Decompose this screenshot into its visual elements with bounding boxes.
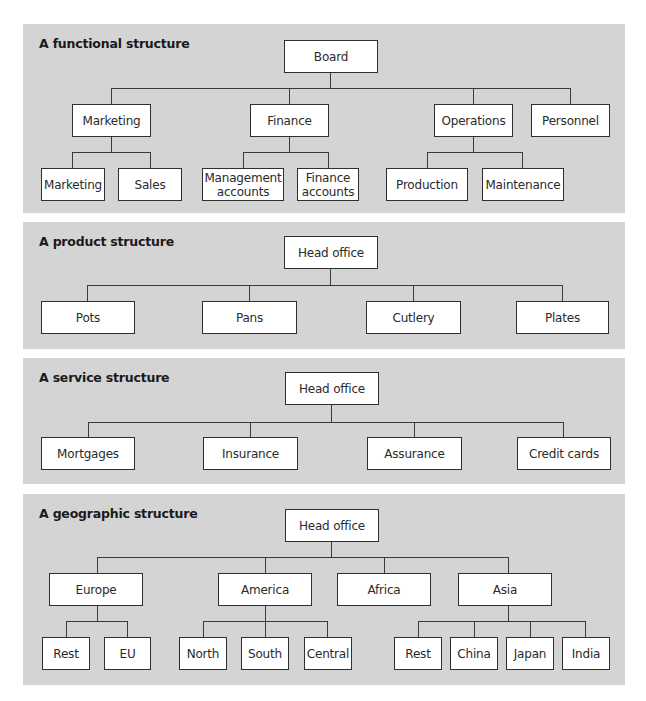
- node-south: South: [241, 637, 289, 670]
- node-assurance: Assurance: [367, 437, 462, 470]
- node-cutlery: Cutlery: [366, 301, 461, 334]
- connector-line: [87, 285, 88, 301]
- connector-line: [473, 137, 474, 152]
- connector-line: [243, 152, 244, 168]
- connector-line: [111, 88, 571, 89]
- panel-title: A service structure: [39, 370, 169, 385]
- connector-line: [265, 557, 266, 573]
- connector-line: [418, 621, 419, 637]
- connector-line: [562, 285, 563, 301]
- connector-line: [427, 152, 523, 153]
- node-eu: EU: [104, 637, 151, 670]
- connector-line: [330, 73, 331, 88]
- connector-line: [289, 88, 290, 104]
- connector-line: [72, 152, 73, 168]
- connector-line: [563, 422, 564, 437]
- connector-line: [522, 152, 523, 168]
- node-europe: Europe: [49, 573, 143, 606]
- connector-line: [243, 152, 329, 153]
- connector-line: [127, 621, 128, 637]
- connector-line: [570, 88, 571, 104]
- connector-line: [331, 405, 332, 422]
- connector-line: [203, 621, 204, 637]
- connector-line: [265, 621, 266, 637]
- connector-line: [384, 557, 385, 573]
- connector-line: [427, 152, 428, 168]
- node-maintenance: Maintenance: [482, 168, 564, 201]
- connector-line: [111, 88, 112, 104]
- connector-line: [72, 152, 151, 153]
- node-head-office: Head office: [284, 236, 378, 269]
- node-china: China: [450, 637, 498, 670]
- node-pans: Pans: [202, 301, 297, 334]
- node-credit-cards: Credit cards: [517, 437, 611, 470]
- node-marketing: Marketing: [72, 104, 151, 137]
- node-head-office: Head office: [285, 372, 379, 405]
- connector-line: [327, 621, 328, 637]
- connector-line: [414, 422, 415, 437]
- node-pots: Pots: [41, 301, 135, 334]
- connector-line: [250, 422, 251, 437]
- panel-title: A functional structure: [39, 36, 190, 51]
- node-board: Board: [284, 40, 378, 73]
- connector-line: [418, 621, 586, 622]
- node-asia: Asia: [458, 573, 552, 606]
- node-europe-rest: Rest: [42, 637, 90, 670]
- panel-title: A product structure: [39, 234, 174, 249]
- node-head-office: Head office: [285, 509, 379, 542]
- node-marketing-sub: Marketing: [41, 168, 105, 201]
- node-management-accounts: Management accounts: [202, 168, 284, 201]
- node-finance-accounts: Finance accounts: [297, 168, 359, 201]
- connector-line: [413, 285, 414, 301]
- node-africa: Africa: [337, 573, 431, 606]
- connector-line: [530, 621, 531, 637]
- connector-line: [331, 542, 332, 557]
- node-sales: Sales: [118, 168, 182, 201]
- node-asia-rest: Rest: [394, 637, 442, 670]
- connector-line: [66, 621, 67, 637]
- node-personnel: Personnel: [531, 104, 610, 137]
- connector-line: [97, 557, 98, 573]
- connector-line: [508, 606, 509, 621]
- connector-line: [66, 621, 128, 622]
- panel-title: A geographic structure: [39, 506, 198, 521]
- connector-line: [249, 285, 250, 301]
- node-finance: Finance: [250, 104, 329, 137]
- connector-line: [508, 557, 509, 573]
- connector-line: [97, 606, 98, 621]
- node-insurance: Insurance: [203, 437, 298, 470]
- node-central: Central: [304, 637, 352, 670]
- connector-line: [289, 137, 290, 152]
- connector-line: [585, 621, 586, 637]
- node-india: India: [562, 637, 610, 670]
- connector-line: [111, 137, 112, 152]
- node-north: North: [179, 637, 227, 670]
- connector-line: [473, 88, 474, 104]
- connector-line: [88, 422, 564, 423]
- node-plates: Plates: [516, 301, 609, 334]
- node-operations: Operations: [434, 104, 513, 137]
- connector-line: [87, 285, 563, 286]
- connector-line: [474, 621, 475, 637]
- connector-line: [328, 152, 329, 168]
- connector-line: [265, 606, 266, 621]
- node-production: Production: [386, 168, 468, 201]
- connector-line: [330, 269, 331, 285]
- node-america: America: [218, 573, 312, 606]
- connector-line: [97, 557, 509, 558]
- node-japan: Japan: [506, 637, 554, 670]
- node-mortgages: Mortgages: [41, 437, 135, 470]
- connector-line: [88, 422, 89, 437]
- connector-line: [150, 152, 151, 168]
